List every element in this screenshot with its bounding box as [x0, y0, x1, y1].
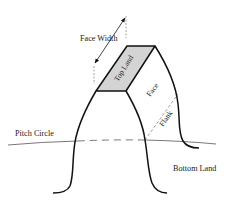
bottom-land-label: Bottom Land	[173, 164, 216, 173]
back-face-profile	[155, 46, 199, 148]
face-width-label: Face Width	[80, 34, 118, 43]
pitch-circle-label: Pitch Circle	[15, 129, 54, 138]
face-label: Face	[144, 81, 160, 98]
gear-tooth-diagram: Face Width Top Land Face Flank Pitch Cir…	[0, 0, 231, 200]
right-tooth-profile	[126, 91, 167, 193]
flank-label: Flank	[157, 109, 174, 128]
